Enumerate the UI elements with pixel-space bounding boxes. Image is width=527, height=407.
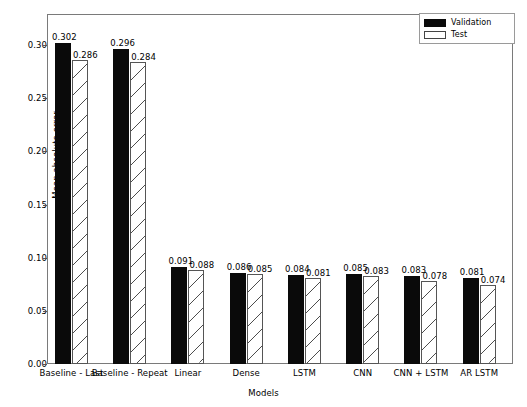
x-axis-label: Models <box>0 388 527 398</box>
x-tick-label: Linear <box>174 368 201 378</box>
chart-legend: Validation Test <box>419 13 515 44</box>
legend-swatch-test-icon <box>424 31 446 39</box>
x-tick-label: Dense <box>233 368 260 378</box>
legend-entry-validation: Validation <box>424 17 510 28</box>
x-tick-label: CNN + LSTM <box>394 368 449 378</box>
x-axis-tick-labels: Baseline - LastBaseline - RepeatLinearDe… <box>0 0 527 407</box>
legend-swatch-validation-icon <box>424 19 446 27</box>
x-tick-label: AR LSTM <box>460 368 498 378</box>
bar-chart-figure: 0.000.050.100.150.200.250.30 Mean absolu… <box>0 0 527 407</box>
legend-label-test: Test <box>451 30 467 39</box>
x-tick-label: LSTM <box>293 368 316 378</box>
legend-entry-test: Test <box>424 29 510 40</box>
x-tick-label: CNN <box>353 368 372 378</box>
x-tick-label: Baseline - Repeat <box>92 368 168 378</box>
legend-label-validation: Validation <box>451 18 492 27</box>
